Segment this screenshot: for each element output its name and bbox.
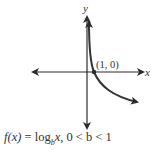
caption-condition: , 0 < b < 1 [60, 130, 112, 144]
caption-log: = log [21, 130, 50, 144]
point-label: (1, 0) [96, 59, 119, 71]
x-axis-label: x [144, 66, 150, 78]
point-1-0 [92, 70, 96, 74]
function-caption: f(x) = logbx, 0 < b < 1 [4, 130, 112, 147]
y-axis-label: y [82, 2, 88, 14]
caption-fx: f(x) [4, 130, 21, 144]
